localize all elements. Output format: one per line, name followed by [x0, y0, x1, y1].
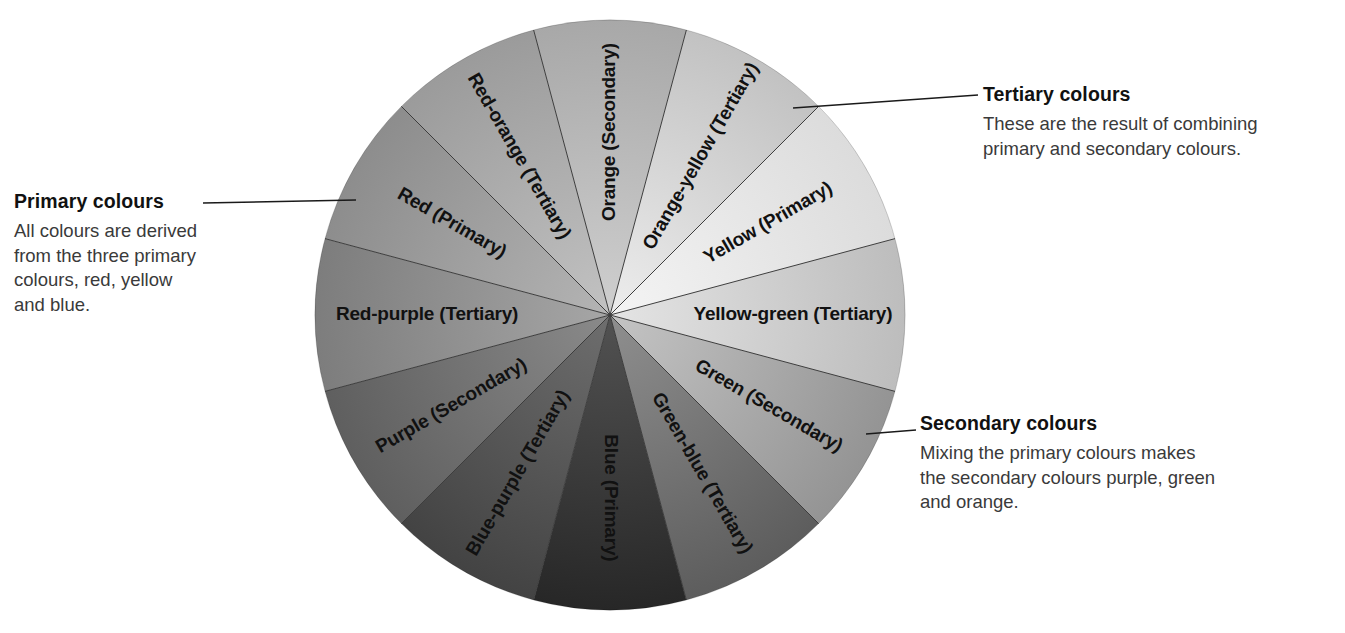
callout-tertiary-colours: Tertiary colours These are the result of…	[983, 83, 1313, 161]
callout-primary-line-3: colours, red, yellow	[14, 268, 304, 293]
sector-label-yellow-green: Yellow-green (Tertiary)	[693, 303, 892, 324]
callout-tertiary-line-1: These are the result of combining	[983, 112, 1313, 137]
sector-label-red-purple: Red-purple (Tertiary)	[336, 303, 518, 324]
callout-secondary-line-3: and orange.	[920, 490, 1290, 515]
callout-tertiary-body: These are the result of combining primar…	[983, 112, 1313, 161]
callout-primary-line-2: from the three primary	[14, 244, 304, 269]
callout-primary-line-1: All colours are derived	[14, 219, 304, 244]
callout-primary-title: Primary colours	[14, 190, 304, 213]
colour-wheel-diagram: Orange (Secondary)Orange-yellow (Tertiar…	[0, 0, 1345, 633]
callout-secondary-line-2: the secondary colours purple, green	[920, 466, 1290, 491]
callout-primary-colours: Primary colours All colours are derived …	[14, 190, 304, 317]
sector-label-orange: Orange (Secondary)	[598, 43, 619, 221]
callout-primary-body: All colours are derived from the three p…	[14, 219, 304, 317]
callout-primary-line-4: and blue.	[14, 293, 304, 318]
leader-line-tertiary	[793, 95, 978, 108]
callout-secondary-title: Secondary colours	[920, 412, 1290, 435]
sector-label-blue: Blue (Primary)	[601, 434, 622, 561]
callout-tertiary-line-2: primary and secondary colours.	[983, 137, 1313, 162]
callout-secondary-colours: Secondary colours Mixing the primary col…	[920, 412, 1290, 515]
callout-tertiary-title: Tertiary colours	[983, 83, 1313, 106]
callout-secondary-body: Mixing the primary colours makes the sec…	[920, 441, 1290, 515]
callout-secondary-line-1: Mixing the primary colours makes	[920, 441, 1290, 466]
